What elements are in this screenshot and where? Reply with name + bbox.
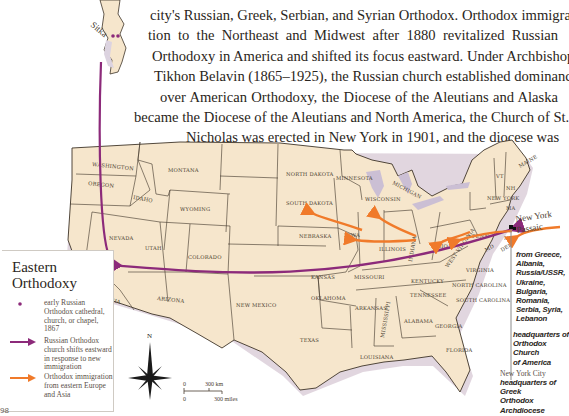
svg-text:WYOMING: WYOMING	[180, 206, 210, 212]
svg-text:IOWA: IOWA	[344, 232, 360, 238]
svg-text:KENTUCKY: KENTUCKY	[411, 278, 444, 284]
svg-text:KANSAS: KANSAS	[311, 274, 335, 280]
cathedral-dot-icon	[111, 34, 115, 38]
alaska-panhandle: Sitka	[89, 0, 126, 74]
cathedral-dot-icon	[8, 299, 38, 309]
svg-text:MA: MA	[506, 205, 516, 211]
svg-text:FLORIDA: FLORIDA	[446, 347, 473, 353]
svg-text:GEORGIA: GEORGIA	[435, 323, 462, 329]
svg-text:NJ: NJ	[504, 235, 511, 242]
purple-arrow-icon	[8, 337, 38, 347]
svg-text:NORTH CAROLINA: NORTH CAROLINA	[452, 282, 507, 288]
map-legend: Eastern Orthodoxy early Russian Orthodox…	[2, 250, 114, 412]
svg-text:SOUTH CAROLINA: SOUTH CAROLINA	[456, 297, 510, 303]
svg-text:NEW MEXICO: NEW MEXICO	[236, 302, 276, 308]
callout-nyc-title: New York City	[500, 369, 546, 378]
compass-rose-icon: N	[128, 332, 172, 400]
orange-arrow-icon	[8, 373, 38, 383]
svg-text:MISSOURI: MISSOURI	[354, 274, 385, 280]
cathedral-dot-icon	[116, 34, 120, 38]
svg-text:NEBRASKA: NEBRASKA	[299, 233, 331, 239]
svg-text:VT: VT	[495, 173, 504, 179]
svg-text:LOUISIANA: LOUISIANA	[360, 354, 394, 360]
svg-text:ARKANSAS: ARKANSAS	[354, 305, 387, 311]
page-number: 98	[0, 406, 9, 415]
svg-text:ALABAMA: ALABAMA	[403, 318, 433, 324]
svg-text:ILLINOIS: ILLINOIS	[379, 246, 406, 252]
svg-text:OKLAHOMA: OKLAHOMA	[311, 295, 346, 301]
svg-text:0: 0	[183, 381, 186, 387]
callout-hq-orthodox-church-america: headquarters of Orthodox Church of Ameri…	[513, 330, 569, 367]
svg-text:NH: NH	[506, 185, 516, 191]
new-york-marker	[509, 225, 513, 229]
svg-text:300 miles: 300 miles	[214, 396, 238, 402]
svg-text:UTAH: UTAH	[145, 245, 162, 251]
svg-text:0: 0	[183, 396, 186, 402]
svg-text:NORTH DAKOTA: NORTH DAKOTA	[286, 171, 334, 177]
svg-text:300 km: 300 km	[205, 381, 224, 387]
svg-text:NEVADA: NEVADA	[109, 235, 134, 241]
svg-text:TENNESSEE: TENNESSEE	[410, 292, 447, 298]
svg-text:TEXAS: TEXAS	[300, 337, 319, 343]
svg-text:MONTANA: MONTANA	[168, 167, 199, 173]
legend-title: Eastern Orthodoxy	[12, 259, 77, 291]
svg-text:VIRGINIA: VIRGINIA	[465, 267, 494, 273]
svg-text:MINNESOTA: MINNESOTA	[336, 175, 373, 181]
callout-immigration-origins: from Greece, Albania, Russia/USSR, Ukrai…	[516, 250, 565, 324]
svg-text:WISCONSIN: WISCONSIN	[365, 196, 401, 202]
svg-text:N: N	[147, 332, 152, 340]
svg-text:NEW YORK: NEW YORK	[487, 195, 519, 201]
svg-text:SOUTH DAKOTA: SOUTH DAKOTA	[286, 200, 333, 206]
callout-hq-greek-archdiocese: headquarters of Greek Orthodox Archdioce…	[500, 378, 569, 416]
svg-text:COLORADO: COLORADO	[188, 254, 222, 260]
scale-bar: 0 300 km 0 300 miles	[183, 381, 238, 402]
